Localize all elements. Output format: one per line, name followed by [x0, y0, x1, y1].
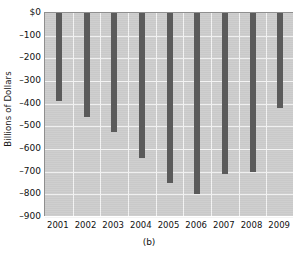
gridline-vertical	[239, 13, 240, 216]
x-axis-tick-labels: 200120022003200420052006200720082009	[44, 220, 293, 234]
bar-2004	[139, 13, 145, 158]
y-tick-label: –200	[12, 52, 41, 62]
gridline-vertical	[156, 13, 157, 216]
bar-2002	[84, 13, 90, 117]
bar-2003	[111, 13, 117, 132]
bar-2008	[250, 13, 256, 172]
y-tick-label: –500	[12, 120, 41, 130]
x-tick-label: 2005	[158, 220, 180, 230]
y-tick-label: –400	[12, 98, 41, 108]
y-tick-label: –900	[12, 211, 41, 221]
y-axis-tick-labels: $0–100–200–300–400–500–600–700–800–900	[12, 0, 41, 264]
y-tick-label: –300	[12, 75, 41, 85]
gridline-vertical	[266, 13, 267, 216]
x-tick-label: 2008	[241, 220, 263, 230]
gridline-vertical	[128, 13, 129, 216]
gridline-vertical	[100, 13, 101, 216]
figure-caption: (b)	[0, 237, 298, 247]
y-tick-label: –600	[12, 143, 41, 153]
bar-2001	[56, 13, 62, 101]
gridline-vertical	[211, 13, 212, 216]
bar-2006	[194, 13, 200, 194]
bar-2009	[277, 13, 283, 108]
y-tick-label: –800	[12, 188, 41, 198]
y-tick-label: $0	[12, 7, 41, 17]
x-tick-label: 2001	[47, 220, 69, 230]
y-tick-label: –100	[12, 30, 41, 40]
x-tick-label: 2004	[130, 220, 152, 230]
x-tick-label: 2007	[213, 220, 235, 230]
gridline-vertical	[73, 13, 74, 216]
bar-2005	[167, 13, 173, 183]
x-tick-label: 2009	[268, 220, 290, 230]
x-tick-label: 2002	[75, 220, 97, 230]
x-tick-label: 2006	[185, 220, 207, 230]
plot-area	[44, 12, 293, 216]
bar-2007	[222, 13, 228, 174]
chart-figure: Billions of Dollars $0–100–200–300–400–5…	[0, 0, 298, 264]
gridline-horizontal	[45, 194, 293, 195]
y-tick-label: –700	[12, 166, 41, 176]
gridline-horizontal	[45, 217, 293, 218]
gridline-vertical	[183, 13, 184, 216]
x-tick-label: 2003	[102, 220, 124, 230]
